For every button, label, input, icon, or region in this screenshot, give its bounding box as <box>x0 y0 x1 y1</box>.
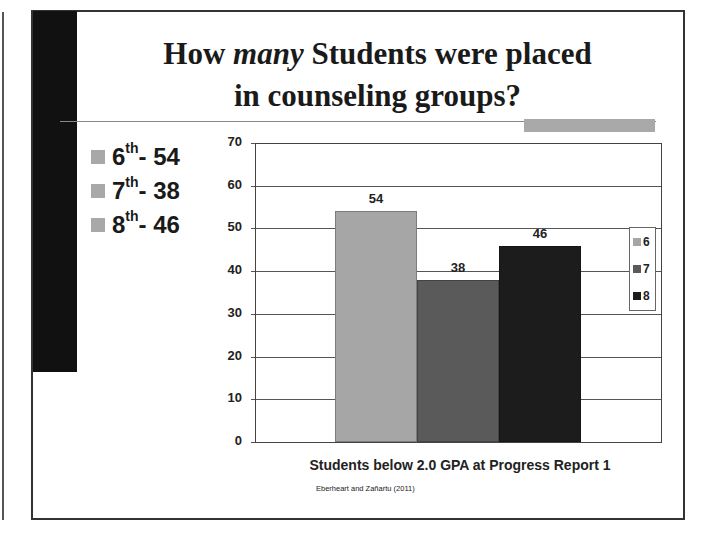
legend-label: 6 <box>643 235 650 249</box>
bullet-square-icon <box>91 218 105 232</box>
bar-grade-7 <box>417 280 499 442</box>
chart-legend: 678 <box>629 227 656 311</box>
legend-item: 8 <box>630 282 655 309</box>
slide-title: How many Students were placed in counsel… <box>90 33 665 117</box>
title-line-2: in counseling groups? <box>90 75 665 117</box>
bar-grade-8 <box>499 246 581 442</box>
accent-bar <box>524 119 655 132</box>
bar-value-label: 46 <box>510 226 570 241</box>
bullet-square-icon <box>91 184 105 198</box>
legend-label: 7 <box>643 262 650 276</box>
y-tick-label: 40 <box>212 262 242 277</box>
y-tick-label: 10 <box>212 390 242 405</box>
bar-grade-6 <box>335 211 417 442</box>
legend-label: 8 <box>643 289 650 303</box>
decorative-black-bar <box>33 11 77 372</box>
legend-swatch-icon <box>633 238 641 246</box>
title-emphasis: many <box>233 36 304 71</box>
left-edge-line <box>2 12 4 520</box>
bullet-item: 8th - 46 <box>91 208 180 242</box>
legend-swatch-icon <box>633 265 641 273</box>
legend-item: 6 <box>630 228 655 255</box>
citation: Eberheart and Zañartu (2011) <box>316 484 415 493</box>
title-line-1: How many Students were placed <box>90 33 665 75</box>
y-tick-label: 0 <box>212 433 242 448</box>
y-tick-label: 60 <box>212 177 242 192</box>
bar-value-label: 54 <box>346 191 406 206</box>
bullet-list: 6th - 54 7th - 38 8th - 46 <box>91 140 180 242</box>
bullet-square-icon <box>91 150 105 164</box>
x-axis-label: Students below 2.0 GPA at Progress Repor… <box>255 457 665 473</box>
y-tick-label: 30 <box>212 305 242 320</box>
bullet-item: 6th - 54 <box>91 140 180 174</box>
bar-value-label: 38 <box>428 260 488 275</box>
legend-item: 7 <box>630 255 655 282</box>
y-tick-label: 70 <box>212 134 242 149</box>
legend-swatch-icon <box>633 292 641 300</box>
y-tick-label: 20 <box>212 348 242 363</box>
bullet-item: 7th - 38 <box>91 174 180 208</box>
y-tick-label: 50 <box>212 219 242 234</box>
